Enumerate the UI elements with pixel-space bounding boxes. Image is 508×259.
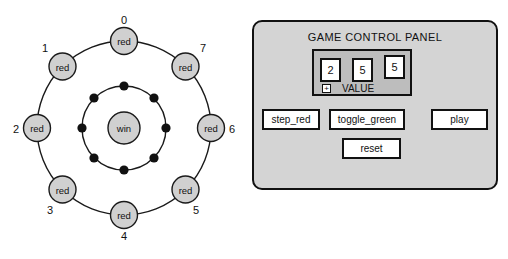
ring-node-label: red <box>179 185 193 196</box>
ring-node-label: red <box>56 62 70 73</box>
inner-dot <box>119 165 128 174</box>
ring-node-index: 7 <box>200 42 206 54</box>
ring-node-label: red <box>117 36 131 47</box>
ring-node-5: red 5 <box>172 176 199 216</box>
step-red-button[interactable]: step_red <box>262 109 320 130</box>
inner-dot <box>119 81 128 90</box>
center-node-label: win <box>116 123 131 134</box>
ring-node-3: red 3 <box>47 176 76 216</box>
panel-title: GAME CONTROL PANEL <box>254 31 496 43</box>
ring-node-index: 0 <box>121 14 127 26</box>
ring-node-index: 3 <box>47 204 53 216</box>
value-caption: VALUE <box>342 83 374 94</box>
ring-node-index: 1 <box>42 42 48 54</box>
ring-node-6: red 6 <box>198 115 236 142</box>
ring-node-index: 6 <box>229 123 235 135</box>
inner-dot <box>161 123 170 132</box>
inner-dot <box>89 93 98 102</box>
inner-dot <box>77 123 86 132</box>
inner-dot <box>149 93 158 102</box>
game-state-ring-diagram: win red 0 red 1 red 2 red 3 <box>0 0 248 259</box>
plus-icon[interactable]: + <box>322 84 331 93</box>
play-button[interactable]: play <box>431 109 488 130</box>
ring-node-label: red <box>30 123 44 134</box>
ring-node-1: red 1 <box>42 42 76 80</box>
ring-node-label: red <box>56 185 70 196</box>
value-digit-0[interactable]: 2 <box>320 58 341 82</box>
value-digit-2[interactable]: 5 <box>384 55 405 79</box>
game-control-panel: GAME CONTROL PANEL 2 5 5 + VALUE step_re… <box>252 20 498 190</box>
value-group: 2 5 5 + VALUE <box>312 49 412 96</box>
ring-node-index: 4 <box>121 230 127 242</box>
ring-node-index: 2 <box>13 123 19 135</box>
ring-node-7: red 7 <box>172 42 206 80</box>
inner-dot <box>149 153 158 162</box>
ring-node-label: red <box>204 123 218 134</box>
ring-node-4: red 4 <box>111 202 138 243</box>
ring-node-2: red 2 <box>13 115 51 142</box>
ring-node-label: red <box>179 62 193 73</box>
toggle-green-button[interactable]: toggle_green <box>329 109 405 130</box>
reset-button[interactable]: reset <box>342 138 401 159</box>
value-digit-1[interactable]: 5 <box>352 58 373 82</box>
inner-dot <box>89 153 98 162</box>
ring-node-index: 5 <box>193 204 199 216</box>
ring-node-0: red 0 <box>111 14 138 55</box>
ring-node-label: red <box>117 210 131 221</box>
center-node-win: win <box>108 112 140 144</box>
